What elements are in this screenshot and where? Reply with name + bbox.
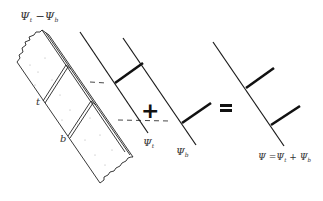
label-result: Ψ =Ψt + Ψb	[258, 152, 312, 163]
slab-divider-top	[43, 65, 71, 103]
label-psi-b: Ψb	[176, 146, 189, 158]
slab-model: t b	[17, 30, 133, 183]
component-psi-b: Ψb	[123, 38, 211, 158]
label-psi-t: Ψt	[143, 137, 155, 149]
plus-operator: +	[141, 98, 159, 123]
connector-dash-top	[90, 82, 106, 83]
slab-label-bottom: b	[60, 133, 66, 144]
equals-operator	[220, 104, 232, 112]
component-psi-t: Ψt	[80, 32, 155, 149]
component-result: Ψ =Ψt + Ψb	[213, 42, 312, 163]
diagram-title: Ψt −Ψb	[20, 10, 58, 23]
superposition-diagram: Ψt −Ψb t	[0, 0, 323, 201]
slab-divider-bottom	[68, 101, 96, 138]
slab-label-top: t	[36, 96, 41, 107]
